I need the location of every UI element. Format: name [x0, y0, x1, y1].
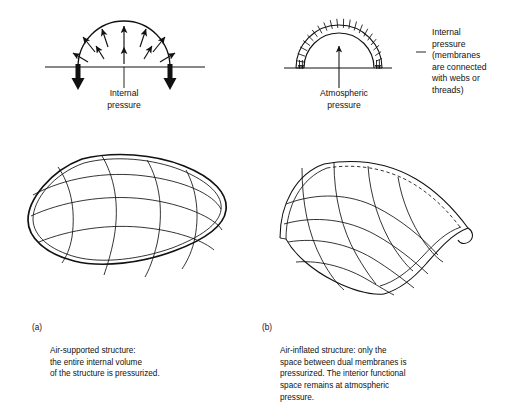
panel-b-internal-pressure-label: Internal pressure (membranes are connect…	[432, 27, 514, 97]
caption-b-tag: (b)	[262, 322, 272, 334]
air-inflated-barrel-svg	[272, 142, 507, 302]
panel-a-section	[20, 2, 240, 97]
cutaway-tip-roll	[458, 228, 472, 244]
air-supported-arch-svg	[20, 2, 240, 97]
anchor-arrow-left	[72, 64, 85, 90]
anchor-arrow-right	[164, 64, 177, 90]
caption-a: (a) Air-supported structure: the entire …	[32, 322, 247, 392]
caption-b-text: Air-inflated structure: only the space b…	[280, 345, 487, 403]
panel-b-perspective	[272, 142, 507, 302]
air-supported-pillow-svg	[14, 142, 259, 302]
panel-a-perspective	[14, 142, 259, 302]
left-end-thickness	[280, 238, 286, 239]
internal-pressure-arrows	[73, 26, 175, 64]
cutaway-outer-edge	[384, 228, 468, 294]
longitudinal-seams	[31, 174, 222, 250]
caption-a-tag: (a)	[32, 322, 42, 334]
caption-a-text: Air-supported structure: the entire inte…	[50, 345, 247, 380]
left-end-inner-arc	[286, 168, 327, 239]
panel-b-atmospheric-label: Atmospheric pressure	[294, 88, 394, 111]
panel-a-pressure-label: Internal pressure	[79, 88, 169, 111]
caption-b: (b) Air-inflated structure: only the spa…	[262, 322, 487, 405]
longitudinal-seams	[284, 196, 438, 295]
front-lower-edge	[286, 239, 384, 294]
